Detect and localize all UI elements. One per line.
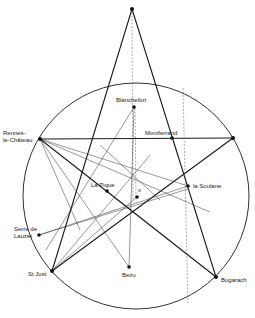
bugarach-dot (214, 275, 218, 279)
montferrand-dot (170, 136, 174, 140)
label-bugarach: Bugarach (221, 277, 247, 283)
location-dots (37, 7, 235, 279)
label-rennes-2: le-Château (3, 137, 32, 143)
x-point-dot (135, 195, 139, 199)
rennes-dot (38, 137, 42, 141)
blanchefort-dot (132, 105, 136, 109)
la-pique-dot (105, 189, 109, 193)
la-soulane-dot (186, 184, 190, 188)
label-montferrand: Montferrand (145, 130, 177, 136)
label-x: x (138, 187, 141, 193)
label-serre-1: Serre de (14, 226, 38, 232)
label-serre-2: Lauzet (14, 233, 32, 239)
label-st-just: St Just (28, 271, 47, 277)
pentagram-diagram: Rennes- le-Château Blanchefort Montferra… (0, 0, 255, 318)
dashed-verticals (132, 12, 188, 305)
label-la-pique: La Pique (91, 182, 115, 188)
apex-dot (130, 7, 134, 11)
serre-de-lauzet-dot (37, 233, 41, 237)
st-just-dot (50, 269, 54, 273)
label-la-soulane: la Soulane (193, 183, 222, 189)
right-point-dot (231, 136, 235, 140)
bezu-dot (127, 265, 131, 269)
label-rennes-1: Rennes- (3, 130, 26, 136)
label-blanchefort: Blanchefort (116, 97, 147, 103)
pentagram-lines (40, 9, 233, 277)
label-bezu: Bezu (122, 272, 136, 278)
